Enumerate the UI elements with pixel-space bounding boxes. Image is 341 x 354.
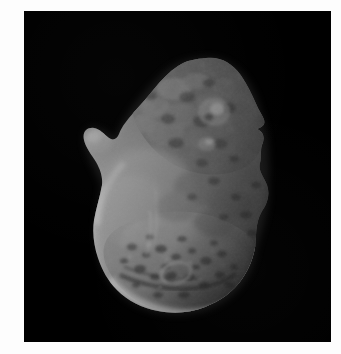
mat-border-bottom [0, 342, 341, 354]
comet-nucleus-image [24, 11, 331, 342]
mat-border-left [0, 0, 24, 354]
screenshot-root: Grayscale spacecraft close-up of an irre… [0, 0, 341, 354]
mat-border-right [331, 0, 341, 354]
nucleus-soft-halo [85, 58, 269, 314]
mat-border-top [0, 0, 341, 11]
photo-frame [24, 11, 331, 342]
